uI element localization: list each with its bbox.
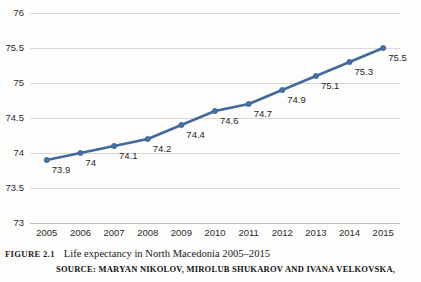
data-point-marker [78, 150, 83, 155]
data-point-marker [246, 101, 251, 106]
x-axis-tick-label: 2015 [373, 227, 394, 238]
data-point-marker [212, 108, 217, 113]
y-axis-tick-label: 76 [13, 7, 24, 18]
x-axis-tick-label: 2013 [305, 227, 326, 238]
x-axis-tick-label: 2007 [104, 227, 125, 238]
x-axis-tick-label: 2008 [137, 227, 158, 238]
x-axis-tick-label: 2006 [70, 227, 91, 238]
x-axis-tick-label: 2010 [204, 227, 225, 238]
data-point-marker [381, 45, 386, 50]
data-point-label: 74.1 [119, 150, 138, 161]
data-point-label: 74.9 [287, 94, 306, 105]
data-point-label: 74.2 [153, 143, 172, 154]
y-axis-tick-label: 75.5 [6, 42, 25, 53]
data-point-marker [111, 143, 116, 148]
data-point-marker [44, 157, 49, 162]
figure-source: SOURCE: MARYAN NIKOLOV, MIROLUB SHUKAROV… [56, 264, 395, 274]
data-point-label: 74 [85, 157, 96, 168]
figure-page: 7373.57474.57575.57620052006200720082009… [0, 0, 421, 282]
data-point-label: 73.9 [52, 164, 70, 175]
x-axis-tick-label: 2005 [36, 227, 57, 238]
data-point-marker [347, 59, 352, 64]
data-point-label: 74.6 [220, 115, 239, 126]
figure-title: Life expectancy in North Macedonia 2005–… [64, 248, 270, 259]
data-point-label: 74.4 [186, 129, 205, 140]
data-point-label: 75.5 [388, 52, 407, 63]
chart-figure: 7373.57474.57575.57620052006200720082009… [0, 0, 421, 245]
caption-block: FIGURE 2.1Life expectancy in North Maced… [0, 245, 421, 282]
data-point-marker [280, 87, 285, 92]
data-point-marker [313, 73, 318, 78]
figure-caption: FIGURE 2.1Life expectancy in North Maced… [5, 248, 270, 259]
line-chart: 7373.57474.57575.57620052006200720082009… [0, 0, 421, 245]
x-axis-tick-label: 2012 [272, 227, 293, 238]
y-axis-tick-label: 73 [13, 217, 24, 228]
x-axis-tick-label: 2014 [339, 227, 360, 238]
data-point-label: 75.1 [321, 80, 340, 91]
data-point-label: 74.7 [254, 108, 272, 119]
series-line [47, 48, 383, 160]
figure-number: FIGURE 2.1 [5, 249, 55, 259]
y-axis-tick-label: 74.5 [6, 112, 25, 123]
data-point-label: 75.3 [355, 66, 374, 77]
x-axis-tick-label: 2009 [171, 227, 192, 238]
y-axis-tick-label: 73.5 [6, 182, 25, 193]
x-axis-tick-label: 2011 [238, 227, 258, 238]
data-point-marker [145, 136, 150, 141]
y-axis-tick-label: 74 [13, 147, 24, 158]
data-point-marker [179, 122, 184, 127]
y-axis-tick-label: 75 [13, 77, 24, 88]
